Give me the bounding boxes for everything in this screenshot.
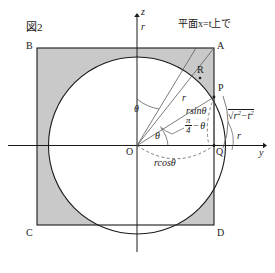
point-label-d: D bbox=[217, 228, 224, 238]
geometry-figure bbox=[0, 0, 275, 273]
fraction-numerator: π bbox=[185, 116, 192, 125]
plane-caption: 平面x=t上で bbox=[178, 19, 231, 29]
point-label-c: C bbox=[26, 228, 33, 238]
radicand-minus: − bbox=[241, 110, 248, 121]
angle-label-theta-from-z: θ bbox=[134, 104, 139, 114]
z-tick-label-r: r bbox=[141, 22, 145, 32]
axis-label-y: y bbox=[259, 148, 263, 158]
minus-sign: − bbox=[192, 120, 201, 131]
angle-label-pi4-minus-theta: π 4 −θ bbox=[185, 116, 205, 135]
point-label-r: R bbox=[197, 65, 204, 75]
segment-label-r-cos-theta: rcosθ bbox=[154, 158, 176, 168]
axis-label-z: z bbox=[141, 7, 145, 17]
point-label-a: A bbox=[217, 41, 224, 51]
segment-label-sqrt-r2-minus-t2: √r2−t2 bbox=[228, 106, 254, 122]
point-label-o: O bbox=[126, 147, 133, 157]
radical-expression: √r2−t2 bbox=[228, 109, 254, 121]
arc-sqrt-r2-t2 bbox=[223, 96, 228, 148]
point-label-p: P bbox=[218, 83, 224, 93]
segment-label-r-sin-theta: rsinθ bbox=[186, 106, 206, 116]
figure-title: 図2 bbox=[26, 22, 43, 33]
shaded-corner-regions bbox=[37, 48, 214, 225]
angle-label-theta-from-y: θ bbox=[155, 131, 160, 141]
point-q-dot bbox=[213, 144, 216, 147]
y-tick-label-r: r bbox=[237, 131, 241, 141]
radicand-t-exponent: 2 bbox=[250, 109, 254, 117]
fraction-denominator: 4 bbox=[185, 125, 192, 135]
theta-term: θ bbox=[200, 120, 205, 131]
point-p-dot bbox=[213, 96, 216, 99]
fraction-pi-over-4: π 4 bbox=[185, 116, 192, 135]
point-label-b: B bbox=[26, 41, 33, 51]
point-r-dot bbox=[199, 77, 202, 80]
point-label-q: Q bbox=[216, 147, 223, 157]
segment-label-radius-r: r bbox=[182, 93, 186, 103]
